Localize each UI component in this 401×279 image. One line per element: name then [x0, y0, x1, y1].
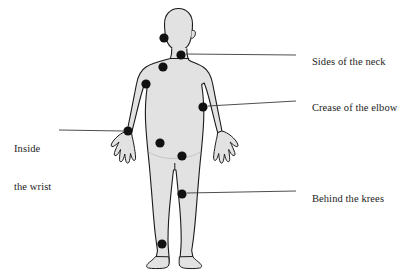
marker-inside-the-wrist: [123, 126, 132, 135]
marker-crease-of-the-elbow: [198, 102, 207, 111]
marker-behind-the-knees: [177, 189, 186, 198]
right-foot-shape: [179, 257, 201, 269]
human-body-figure: [111, 9, 238, 269]
left-hand-shape: [111, 131, 135, 163]
body-diagram: Sides of the neck Crease of the elbow Be…: [0, 0, 401, 279]
marker-abdomen: [155, 138, 164, 147]
marker-upper-arm: [141, 79, 150, 88]
marker-sides-of-the-neck: [176, 50, 185, 59]
leader-line-behind-the-knees: [187, 191, 296, 193]
label-crease-of-the-elbow: Crease of the elbow: [301, 89, 397, 127]
marker-ankle: [157, 239, 166, 248]
body-illustration: [0, 0, 401, 279]
label-inside-the-wrist-line1: Inside: [14, 143, 51, 156]
marker-side-of-head: [159, 33, 168, 42]
head-shape: [165, 9, 193, 51]
label-behind-the-knees: Behind the krees: [301, 180, 384, 218]
left-foot-shape: [147, 257, 169, 269]
label-crease-of-the-elbow-text: Crease of the elbow: [312, 102, 398, 113]
marker-shoulder: [158, 62, 167, 71]
label-inside-the-wrist-line2: the wrist: [14, 181, 51, 194]
marker-hip: [177, 151, 186, 160]
label-behind-the-knees-text: Behind the krees: [312, 193, 384, 204]
neck-outline-right: [187, 49, 188, 59]
leader-line-inside-the-wrist: [59, 130, 123, 131]
neck-outline-left: [171, 49, 172, 59]
torso-and-limbs-shape: [127, 59, 222, 267]
right-hand-shape: [214, 131, 238, 163]
ear-shape: [191, 30, 195, 38]
label-sides-of-the-neck-text: Sides of the neck: [312, 56, 386, 67]
label-inside-the-wrist: Inside the wrist: [14, 118, 51, 218]
leader-line-sides-of-the-neck: [186, 54, 296, 55]
label-sides-of-the-neck: Sides of the neck: [301, 43, 386, 81]
leader-line-crease-of-the-elbow: [208, 101, 296, 106]
